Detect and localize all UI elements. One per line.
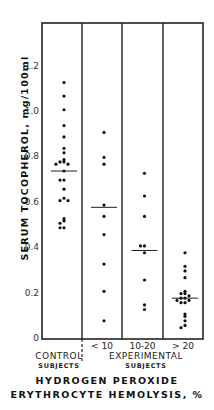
data-point <box>62 219 65 222</box>
data-point <box>62 179 65 182</box>
data-point <box>102 215 105 218</box>
data-point <box>66 199 69 202</box>
data-point <box>62 95 65 98</box>
data-point <box>62 147 65 150</box>
data-point <box>58 179 61 182</box>
data-point <box>179 326 182 329</box>
data-point <box>143 194 146 197</box>
data-point <box>183 292 186 295</box>
data-point <box>102 131 105 134</box>
data-point <box>62 226 65 229</box>
data-point <box>102 319 105 322</box>
data-point <box>143 308 146 311</box>
data-point <box>183 319 186 322</box>
scatter-chart: 00.20.40.60.81.01.2 SERUM TOCOPHEROL, mg… <box>0 0 214 410</box>
data-point <box>179 301 182 304</box>
data-point <box>183 276 186 279</box>
data-point <box>102 163 105 166</box>
data-point <box>179 292 182 295</box>
data-point <box>175 299 178 302</box>
x-axis-title-line2: ERYTHROCYTE HEMOLYSIS, % <box>0 389 214 400</box>
y-tick-label: 0.2 <box>19 288 39 298</box>
data-point <box>58 226 61 229</box>
data-point <box>143 172 146 175</box>
data-point <box>143 303 146 306</box>
data-point <box>62 151 65 154</box>
data-point <box>62 124 65 127</box>
data-point <box>139 244 142 247</box>
data-point <box>102 262 105 265</box>
group-sublabel-experimental: SUBJECTS <box>86 362 206 370</box>
data-point <box>58 199 61 202</box>
data-point <box>62 135 65 138</box>
data-point <box>183 324 186 327</box>
data-point <box>143 244 146 247</box>
data-point <box>183 269 186 272</box>
data-point <box>187 299 190 302</box>
data-point <box>183 315 186 318</box>
category-label-10-20: 10-20 <box>122 341 163 351</box>
data-point <box>58 222 61 225</box>
data-point <box>62 81 65 84</box>
group-label-control: CONTROL <box>34 351 84 361</box>
data-point <box>143 251 146 254</box>
data-point <box>143 215 146 218</box>
y-tick-label: 0 <box>19 333 39 343</box>
data-point <box>102 203 105 206</box>
data-point <box>102 156 105 159</box>
data-point <box>62 197 65 200</box>
x-axis-title-line1: HYDROGEN PEROXIDE <box>0 375 214 386</box>
group-label-experimental: EXPERIMENTAL <box>86 351 206 361</box>
data-point <box>143 278 146 281</box>
data-point <box>102 233 105 236</box>
category-label-gt20: > 20 <box>163 341 203 351</box>
category-label-lt10: < 10 <box>82 341 122 351</box>
data-point <box>58 160 61 163</box>
data-point <box>54 163 57 166</box>
data-point <box>102 290 105 293</box>
data-point <box>183 251 186 254</box>
data-point <box>66 163 69 166</box>
data-point <box>62 108 65 111</box>
y-axis-title: SERUM TOCOPHEROL, mg/100ml <box>19 101 30 261</box>
data-point <box>183 265 186 268</box>
data-point <box>62 160 65 163</box>
group-sublabel-control: SUBJECTS <box>34 362 84 370</box>
data-point <box>62 188 65 191</box>
data-point <box>187 294 190 297</box>
data-point <box>183 301 186 304</box>
